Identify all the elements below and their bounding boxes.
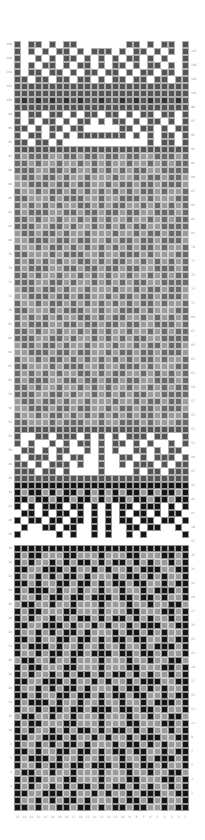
grid-cell — [42, 223, 49, 230]
grid-cell — [21, 398, 28, 405]
grid-cell — [98, 531, 105, 538]
grid-cell — [140, 622, 147, 629]
grid-cell — [112, 279, 119, 286]
grid-cell — [42, 524, 49, 531]
grid-cell — [56, 370, 63, 377]
grid-cell — [119, 510, 126, 517]
grid-cell — [154, 174, 161, 181]
grid-cell — [175, 748, 182, 755]
grid-cell — [182, 594, 189, 601]
grid-cell — [147, 552, 154, 559]
grid-cell — [154, 433, 161, 440]
row-label-right: 65 — [191, 342, 203, 349]
grid-cell — [147, 265, 154, 272]
grid-cell — [49, 384, 56, 391]
grid-cell — [175, 608, 182, 615]
grid-cell — [63, 713, 70, 720]
row-label-left: 30 — [2, 587, 12, 594]
grid-cell — [84, 706, 91, 713]
grid-cell — [28, 790, 35, 797]
grid-cell — [154, 482, 161, 489]
grid-cell — [133, 727, 140, 734]
grid-cell — [70, 552, 77, 559]
grid-cell — [182, 482, 189, 489]
grid-cell — [91, 699, 98, 706]
grid-cell — [154, 552, 161, 559]
grid-cell — [161, 454, 168, 461]
grid-cell — [98, 776, 105, 783]
grid-cell — [182, 83, 189, 90]
grid-cell — [28, 622, 35, 629]
row-label-left: 68 — [2, 321, 12, 328]
grid-cell — [140, 342, 147, 349]
grid-cell — [119, 363, 126, 370]
grid-cell — [133, 104, 140, 111]
grid-cell — [182, 510, 189, 517]
grid-cell — [140, 538, 147, 545]
grid-cell — [84, 174, 91, 181]
grid-cell — [14, 734, 21, 741]
grid-cell — [28, 153, 35, 160]
grid-cell — [119, 349, 126, 356]
grid-cell — [42, 706, 49, 713]
grid-cell — [112, 566, 119, 573]
grid-cell — [42, 741, 49, 748]
grid-cell — [168, 286, 175, 293]
grid-cell — [112, 314, 119, 321]
grid-cell — [175, 727, 182, 734]
row-label-left: 62 — [2, 363, 12, 370]
grid-cell — [49, 321, 56, 328]
grid-cell — [126, 300, 133, 307]
grid-cell — [182, 685, 189, 692]
grid-cell — [56, 286, 63, 293]
grid-cell — [42, 447, 49, 454]
grid-cell — [161, 748, 168, 755]
grid-cell — [161, 125, 168, 132]
grid-cell — [161, 41, 168, 48]
grid-cell — [77, 307, 84, 314]
grid-cell — [84, 622, 91, 629]
grid-cell — [77, 783, 84, 790]
grid-cell — [49, 797, 56, 804]
grid-cell — [28, 664, 35, 671]
grid-cell — [168, 349, 175, 356]
row-label-right: 91 — [191, 160, 203, 167]
grid-cell — [70, 244, 77, 251]
grid-cell — [168, 524, 175, 531]
grid-cell — [161, 356, 168, 363]
grid-cell — [168, 559, 175, 566]
grid-cell — [14, 293, 21, 300]
grid-cell — [98, 104, 105, 111]
grid-cell — [77, 328, 84, 335]
grid-cell — [91, 797, 98, 804]
grid-cell — [98, 685, 105, 692]
grid-cell — [63, 769, 70, 776]
grid-cell — [77, 48, 84, 55]
grid-cell — [140, 272, 147, 279]
grid-cell — [56, 104, 63, 111]
grid-cell — [168, 573, 175, 580]
grid-cell — [56, 321, 63, 328]
grid-cell — [126, 622, 133, 629]
grid-cell — [133, 573, 140, 580]
grid-cell — [21, 258, 28, 265]
grid-cell — [98, 650, 105, 657]
grid-cell — [161, 412, 168, 419]
column-label: 19 — [56, 814, 63, 821]
grid-cell — [56, 713, 63, 720]
grid-cell — [21, 188, 28, 195]
grid-cell — [42, 650, 49, 657]
grid-cell — [112, 636, 119, 643]
grid-cell — [140, 776, 147, 783]
grid-cell — [70, 209, 77, 216]
grid-cell — [140, 615, 147, 622]
grid-cell — [56, 545, 63, 552]
grid-cell — [168, 475, 175, 482]
grid-cell — [147, 111, 154, 118]
grid-cell — [98, 384, 105, 391]
grid-cell — [126, 118, 133, 125]
grid-cell — [63, 90, 70, 97]
grid-cell — [49, 517, 56, 524]
grid-cell — [105, 594, 112, 601]
grid-cell — [28, 426, 35, 433]
